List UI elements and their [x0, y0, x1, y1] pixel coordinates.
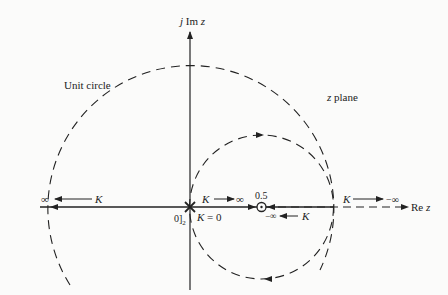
origin-pole-label: 0]2	[174, 213, 186, 227]
zero-value-label: 0.5	[255, 190, 268, 201]
unit-circle	[48, 66, 334, 285]
k-to-inf-k: K	[201, 193, 210, 205]
axis-arrow-to-zero	[248, 204, 256, 210]
unit-circle-label: Unit circle	[64, 79, 111, 91]
locus-arrow-top	[256, 132, 264, 138]
neg-inf-left-label: −∞	[265, 211, 277, 221]
k-neg-inf-right-k: K	[342, 193, 351, 205]
neg-inf-right-label: −∞	[386, 194, 399, 205]
k-zero-label: K = 0	[196, 211, 222, 223]
imag-axis-label: j Im z	[178, 15, 206, 27]
plane-label: z plane	[326, 91, 358, 103]
root-locus-diagram: j Im z Re z Unit circle z plane 0.5 ∞ K …	[0, 0, 448, 295]
left-infinity-label: ∞	[41, 193, 49, 205]
locus-arrow-bottom	[264, 276, 272, 282]
axis-arrow-from-right	[267, 204, 275, 210]
axis-arrow-left	[50, 204, 58, 210]
k-left-label: K	[94, 193, 103, 205]
real-axis-label: Re z	[411, 201, 431, 213]
k-to-inf-infinity: ∞	[236, 193, 244, 205]
diagram-canvas: j Im z Re z Unit circle z plane 0.5 ∞ K …	[0, 0, 448, 295]
k-neg-inf-left-k: K	[301, 210, 310, 222]
